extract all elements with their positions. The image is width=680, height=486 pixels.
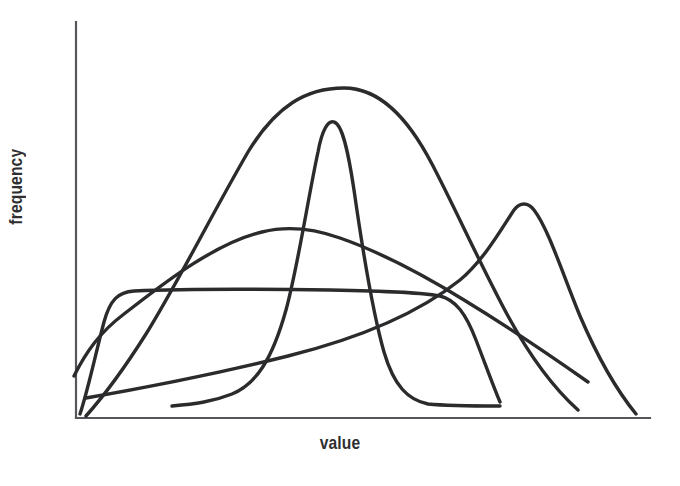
chart-canvas: [0, 0, 680, 486]
chart-figure: frequency value: [0, 0, 680, 486]
curve-tall-broad-bell: [86, 88, 578, 416]
x-axis-label: value: [61, 432, 619, 454]
curve-narrow-spike: [172, 122, 500, 406]
y-axis-label-container: frequency: [5, 107, 31, 267]
curve-flat-plateau: [80, 289, 500, 414]
axes-group: [76, 22, 650, 418]
curves-group: [74, 88, 636, 416]
curve-wide-shallow-hump: [74, 229, 588, 382]
y-axis-label: frequency: [5, 149, 27, 225]
